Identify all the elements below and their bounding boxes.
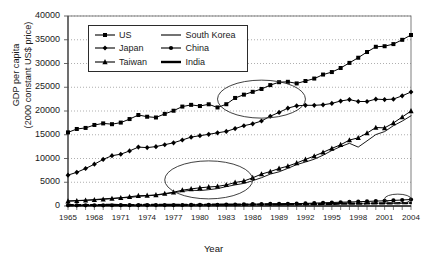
legend-entry-taiwan[interactable]: Taiwan [94,57,154,67]
series-taiwan [65,108,413,203]
legend-entry-south-korea[interactable]: South Korea [160,30,243,40]
legend-label: Taiwan [119,57,147,67]
legend-grid: USSouth KoreaJapanChinaTaiwanIndia [94,28,243,69]
y-axis-tick-label: 0 [14,200,60,210]
legend-label: US [119,30,132,40]
taiwan-south-korea-ellipse [165,161,253,199]
y-axis-tick-label: 30000 [14,58,60,68]
series-japan [66,89,414,177]
y-axis-tick-label: 40000 [14,10,60,20]
chart-legend: USSouth KoreaJapanChinaTaiwanIndia [88,25,248,72]
legend-label: India [185,57,205,67]
legend-entry-us[interactable]: US [94,30,154,40]
circle-legend-icon [160,43,182,53]
y-axis-tick-label: 25000 [14,81,60,91]
gdp-per-capita-line-chart: GDP per capita (2000 constant US$ price)… [0,0,427,266]
triangle-legend-icon [94,57,116,67]
y-axis-tick-label: 15000 [14,129,60,139]
y-axis-tick-label: 20000 [14,105,60,115]
legend-label: China [185,43,209,53]
us-japan-convergence-ellipse [218,80,306,118]
diamond-legend-icon [94,43,116,53]
legend-entry-japan[interactable]: Japan [94,43,154,53]
legend-entry-china[interactable]: China [160,43,243,53]
line-legend-icon [160,30,182,40]
y-axis-tick-label: 10000 [14,153,60,163]
x-axis-tick-label: 2004 [396,213,426,222]
legend-entry-india[interactable]: India [160,57,243,67]
legend-label: South Korea [185,30,235,40]
y-axis-tick-label: 35000 [14,34,60,44]
thickline-legend-icon [160,57,182,67]
y-axis-tick-label: 5000 [14,176,60,186]
square-legend-icon [94,30,116,40]
legend-label: Japan [119,43,144,53]
